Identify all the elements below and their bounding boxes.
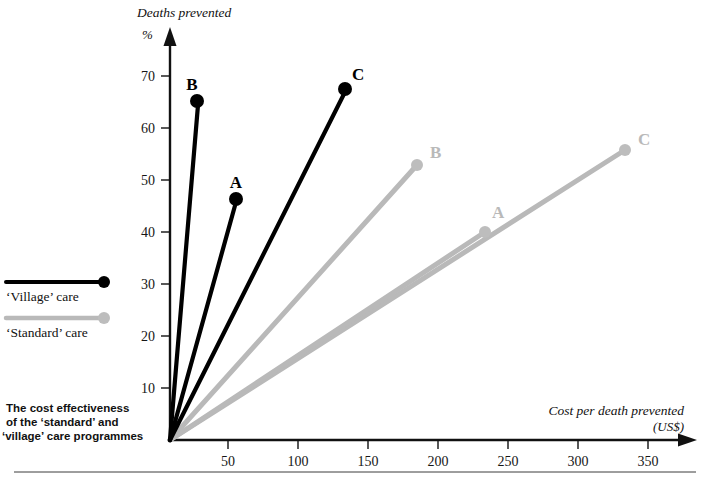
y-tick-label-60: 60 — [141, 121, 155, 136]
village-care-point-c — [338, 82, 352, 96]
village-care-label-a: A — [230, 173, 243, 192]
standard-care-label-c: C — [638, 130, 650, 149]
y-tick-label-50: 50 — [141, 173, 155, 188]
axis-titles: Deaths prevented % Cost per death preven… — [136, 5, 684, 434]
x-axis-arrowhead — [678, 434, 697, 447]
y-tick-label-70: 70 — [141, 69, 155, 84]
x-axis-title: Cost per death prevented — [548, 403, 684, 418]
caption-line-1: The cost effectiveness — [6, 402, 129, 414]
village-care-point-b — [190, 94, 204, 108]
x-tick-label-150: 150 — [358, 454, 379, 469]
x-tick-label-50: 50 — [221, 454, 235, 469]
x-tick-label-100: 100 — [288, 454, 309, 469]
x-tick-label-200: 200 — [428, 454, 449, 469]
cost-effectiveness-chart: 10 20 30 40 50 60 70 50 100 150 200 250 … — [0, 0, 705, 484]
legend-dot-village — [98, 276, 110, 288]
village-care-label-b: B — [186, 75, 197, 94]
caption-line-2: of the ‘standard’ and — [6, 416, 118, 428]
y-tick-label-10: 10 — [141, 381, 155, 396]
standard-care-point-c — [619, 144, 631, 156]
legend-label-standard: ‘Standard’ care — [6, 325, 88, 340]
x-axis-ticks: 50 100 150 200 250 300 350 — [221, 440, 659, 469]
village-care-label-c: C — [352, 65, 364, 84]
y-axis-arrowhead — [164, 27, 177, 46]
standard-care-point-b — [411, 159, 423, 171]
y-axis-ticks: 10 20 30 40 50 60 70 — [141, 69, 170, 396]
village-care-point-a — [229, 192, 243, 206]
axes-group — [164, 27, 698, 447]
legend-label-village: ‘Village’ care — [6, 289, 79, 304]
y-tick-label-40: 40 — [141, 225, 155, 240]
y-tick-label-30: 30 — [141, 277, 155, 292]
legend: ‘Village’ care ‘Standard’ care — [6, 276, 110, 340]
x-tick-label-350: 350 — [638, 454, 659, 469]
standard-care-label-b: B — [430, 143, 441, 162]
figure-root: 10 20 30 40 50 60 70 50 100 150 200 250 … — [0, 0, 705, 484]
figure-caption: The cost effectiveness of the ‘standard’… — [2, 402, 143, 442]
y-axis-unit: % — [142, 27, 153, 42]
x-tick-label-250: 250 — [498, 454, 519, 469]
standard-care-point-a — [479, 226, 491, 238]
x-axis-unit: (US$) — [653, 419, 684, 434]
x-tick-label-300: 300 — [568, 454, 589, 469]
caption-line-3: ‘village’ care programmes — [2, 430, 143, 442]
y-tick-label-20: 20 — [141, 329, 155, 344]
y-axis-title: Deaths prevented — [136, 5, 232, 20]
legend-dot-standard — [98, 312, 110, 324]
standard-care-label-a: A — [492, 203, 505, 222]
